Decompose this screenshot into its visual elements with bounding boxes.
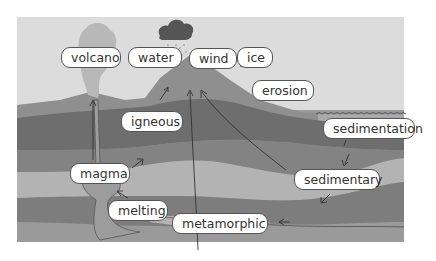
label-volcano: volcano [61,47,121,68]
label-sedimentation: sedimentation [323,118,415,139]
label-metamorphic: metamorphic [172,213,268,234]
label-ice: ice [237,47,273,68]
label-erosion: erosion [252,80,314,101]
label-igneous: igneous [121,111,183,132]
label-wind: wind [189,48,237,69]
label-water: water [128,47,182,68]
label-magma: magma [70,163,130,184]
label-sedimentary: sedimentary [294,169,380,190]
label-melting: melting [108,200,168,221]
